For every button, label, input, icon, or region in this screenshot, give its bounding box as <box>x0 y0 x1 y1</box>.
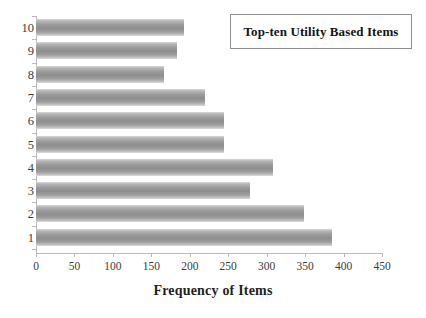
y-tick-mark <box>32 109 36 110</box>
y-tick-mark <box>32 179 36 180</box>
bar-1 <box>36 229 332 246</box>
y-tick-label-5: 5 <box>8 139 34 152</box>
x-axis-line <box>36 253 383 254</box>
x-tick-label-0: 0 <box>16 260 56 272</box>
bar-row <box>36 63 382 86</box>
y-tick-label-2: 2 <box>8 208 34 221</box>
x-tick-mark <box>113 253 114 257</box>
y-tick-mark <box>32 63 36 64</box>
bar-row <box>36 133 382 156</box>
bar-5 <box>36 136 224 153</box>
bar-3 <box>36 182 250 199</box>
bar-row <box>36 109 382 132</box>
y-tick-mark <box>32 86 36 87</box>
x-tick-label-300: 300 <box>247 260 287 272</box>
x-tick-label-400: 400 <box>324 260 364 272</box>
x-tick-label-450: 450 <box>362 260 402 272</box>
y-tick-mark <box>32 39 36 40</box>
bar-2 <box>36 205 304 222</box>
y-tick-mark <box>32 16 36 17</box>
y-tick-label-6: 6 <box>8 115 34 128</box>
y-tick-mark <box>32 226 36 227</box>
x-tick-label-50: 50 <box>54 260 94 272</box>
x-tick-mark <box>305 253 306 257</box>
y-tick-label-10: 10 <box>8 22 34 35</box>
x-tick-label-200: 200 <box>170 260 210 272</box>
x-tick-mark <box>151 253 152 257</box>
bar-10 <box>36 19 184 36</box>
bar-7 <box>36 89 205 106</box>
x-tick-mark <box>382 253 383 257</box>
bar-4 <box>36 159 273 176</box>
y-tick-label-8: 8 <box>8 69 34 82</box>
x-tick-mark <box>344 253 345 257</box>
y-tick-mark <box>32 133 36 134</box>
x-tick-label-150: 150 <box>131 260 171 272</box>
x-tick-mark <box>228 253 229 257</box>
y-tick-mark <box>32 249 36 250</box>
bar-9 <box>36 42 177 59</box>
x-tick-mark <box>190 253 191 257</box>
x-tick-label-250: 250 <box>208 260 248 272</box>
bar-row <box>36 179 382 202</box>
plot-area <box>36 16 382 253</box>
y-tick-mark <box>32 202 36 203</box>
x-tick-label-350: 350 <box>285 260 325 272</box>
bar-chart: 10987654321 050100150200250300350400450 … <box>0 0 426 318</box>
x-tick-mark <box>74 253 75 257</box>
chart-title-box: Top-ten Utility Based Items <box>230 14 412 49</box>
bar-8 <box>36 66 164 83</box>
x-tick-mark <box>36 253 37 257</box>
chart-title-label: Top-ten Utility Based Items <box>244 24 399 40</box>
x-axis-title: Frequency of Items <box>0 283 426 299</box>
y-tick-label-7: 7 <box>8 92 34 105</box>
bar-6 <box>36 112 224 129</box>
y-tick-mark <box>32 156 36 157</box>
bar-row <box>36 86 382 109</box>
x-tick-label-100: 100 <box>93 260 133 272</box>
bar-row <box>36 202 382 225</box>
y-tick-label-9: 9 <box>8 45 34 58</box>
bar-row <box>36 156 382 179</box>
x-tick-mark <box>267 253 268 257</box>
y-tick-label-3: 3 <box>8 185 34 198</box>
y-tick-label-1: 1 <box>8 232 34 245</box>
bar-row <box>36 226 382 249</box>
y-tick-label-4: 4 <box>8 162 34 175</box>
